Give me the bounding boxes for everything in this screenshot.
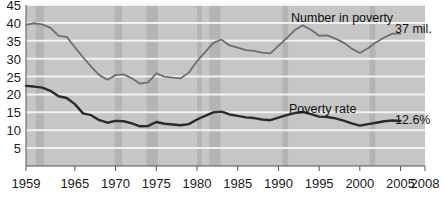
recession-band-1 [115, 5, 122, 166]
y-tick-label-5: 5 [14, 141, 21, 156]
y-tick-label-30: 30 [7, 52, 21, 67]
recession-band-6 [370, 5, 376, 166]
recession-band-4 [209, 5, 220, 166]
x-tick-label-1965: 1965 [60, 176, 89, 191]
recession-band-2 [147, 5, 158, 166]
poverty-chart: 5101520253035404519591965197019751980198… [0, 0, 446, 216]
x-tick-label-1995: 1995 [305, 176, 334, 191]
x-tick-label-2000: 2000 [345, 176, 374, 191]
y-tick-label-20: 20 [7, 87, 21, 102]
plot-background [26, 5, 425, 166]
y-tick-label-35: 35 [7, 34, 21, 49]
rate-end-value: 12.6% [395, 113, 430, 127]
x-tick-label-1980: 1980 [183, 176, 212, 191]
y-tick-label-40: 40 [7, 16, 21, 31]
y-tick-label-45: 45 [7, 0, 21, 13]
x-tick-label-2008: 2008 [411, 176, 440, 191]
recession-band-0 [36, 5, 44, 166]
y-tick-label-15: 15 [7, 105, 21, 120]
x-tick-label-1990: 1990 [264, 176, 293, 191]
x-tick-label-1975: 1975 [142, 176, 171, 191]
recession-band-5 [283, 5, 289, 166]
x-tick-label-1970: 1970 [101, 176, 130, 191]
number-in-poverty-label: Number in poverty [291, 11, 394, 25]
y-tick-label-25: 25 [7, 70, 21, 85]
poverty-rate-label: Poverty rate [289, 102, 356, 116]
chart-canvas: 5101520253035404519591965197019751980198… [0, 0, 446, 216]
y-tick-label-10: 10 [7, 123, 21, 138]
x-tick-label-1959: 1959 [12, 176, 41, 191]
number-end-value: 37 mil. [395, 22, 432, 36]
recession-band-3 [197, 5, 202, 166]
x-tick-label-1985: 1985 [223, 176, 252, 191]
